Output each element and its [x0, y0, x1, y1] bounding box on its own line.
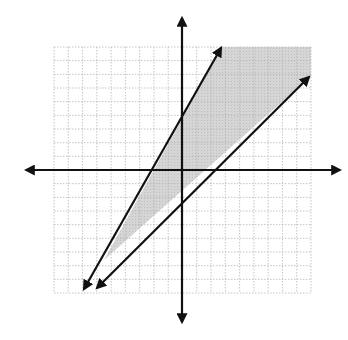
coordinate-graph	[0, 0, 348, 340]
shaded-solution-region	[104, 47, 311, 260]
